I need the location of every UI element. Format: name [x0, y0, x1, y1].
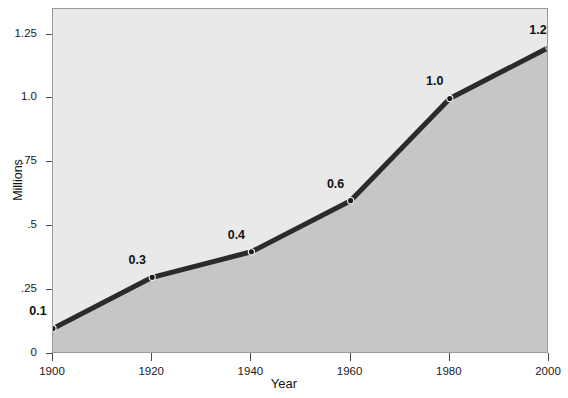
- plot-area: [52, 8, 548, 353]
- data-point-marker: [447, 95, 453, 101]
- x-tick-mark: [52, 353, 53, 361]
- y-tick-mark: [46, 161, 52, 162]
- x-tick-mark: [449, 353, 450, 361]
- y-tick-label: 1.25: [15, 28, 37, 40]
- data-point-marker: [248, 249, 254, 255]
- x-tick-mark: [548, 353, 549, 361]
- y-tick-label: .25: [21, 283, 37, 295]
- y-tick-label: 1.0: [21, 91, 37, 103]
- x-tick-mark: [350, 353, 351, 361]
- y-tick-mark: [46, 97, 52, 98]
- y-tick-mark: [46, 34, 52, 35]
- data-point-marker: [53, 325, 56, 331]
- y-tick-label: 0: [31, 347, 37, 359]
- data-point-label: 0.6: [327, 177, 344, 190]
- y-axis-title: Millions: [11, 140, 25, 220]
- y-tick-label: .5: [27, 219, 37, 231]
- area-fill-shape: [53, 47, 548, 353]
- y-tick-mark: [46, 289, 52, 290]
- x-axis-title: Year: [0, 376, 568, 391]
- data-point-label: 0.4: [228, 228, 245, 241]
- data-point-label: 0.3: [128, 254, 145, 267]
- x-tick-mark: [250, 353, 251, 361]
- data-point-marker: [149, 274, 155, 280]
- data-point-label: 1.0: [426, 75, 443, 88]
- y-tick-mark: [46, 225, 52, 226]
- data-point-marker: [348, 198, 354, 204]
- data-point-label: 1.2: [529, 24, 546, 37]
- line-chart: 0.10.30.40.61.01.2 0.25.5.751.01.25 1900…: [0, 0, 568, 398]
- plot-svg: [53, 9, 548, 353]
- x-tick-mark: [151, 353, 152, 361]
- data-point-marker: [546, 44, 548, 50]
